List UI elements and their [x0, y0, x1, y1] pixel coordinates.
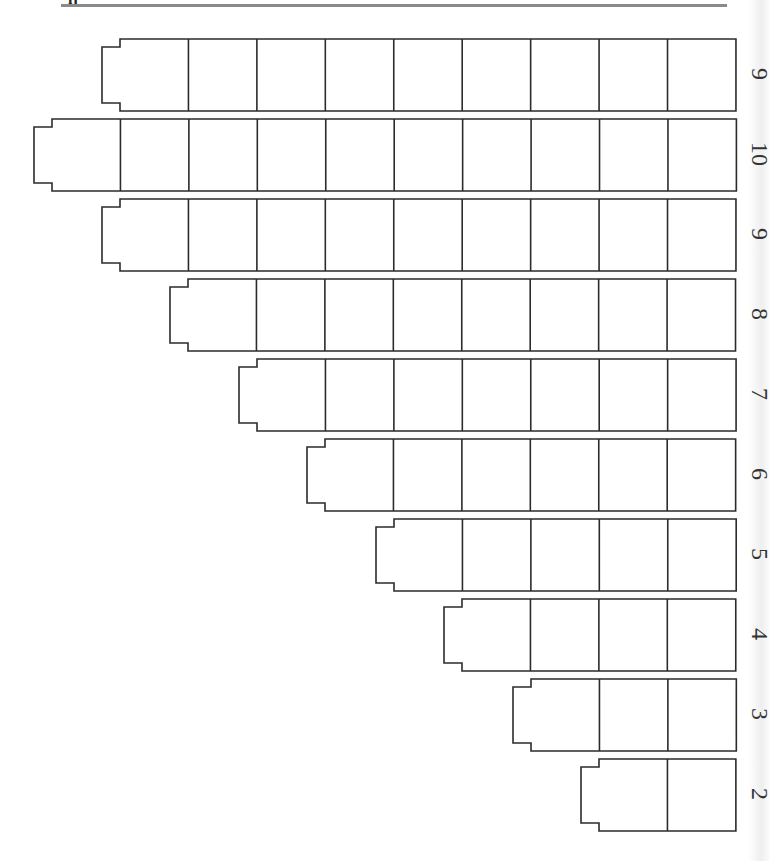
rod-outline — [32, 118, 738, 192]
rod-count-label: 6 — [740, 454, 770, 494]
rod-count-label: 8 — [740, 294, 770, 334]
rod-row — [442, 598, 736, 670]
rod-row — [168, 278, 736, 350]
rod-row — [100, 38, 736, 110]
rod-outline — [100, 38, 738, 112]
rod-count-label: 9 — [740, 54, 770, 94]
rod-count-label: 7 — [740, 374, 770, 414]
rod-count-label: 2 — [740, 774, 770, 814]
rod-outline — [100, 198, 738, 272]
rod-count-label: 5 — [740, 534, 770, 574]
rod-row — [237, 358, 736, 430]
rod-row — [100, 198, 736, 270]
rod-row — [374, 518, 736, 590]
rod-row — [305, 438, 736, 510]
rod-count-label: 10 — [740, 134, 770, 174]
rod-outline — [168, 278, 738, 352]
rod-row — [511, 678, 736, 750]
rod-row — [32, 118, 736, 190]
rod-count-label: 9 — [740, 214, 770, 254]
rod-outline — [305, 438, 738, 512]
rod-count-label: 3 — [740, 694, 770, 734]
rod-count-label: 4 — [740, 614, 770, 654]
rod-outline — [442, 598, 738, 672]
rod-row — [579, 758, 736, 830]
header-rule — [61, 4, 727, 7]
rod-outline — [374, 518, 738, 592]
rod-outline — [237, 358, 738, 432]
rod-outline — [579, 758, 738, 832]
rod-outline — [511, 678, 738, 752]
